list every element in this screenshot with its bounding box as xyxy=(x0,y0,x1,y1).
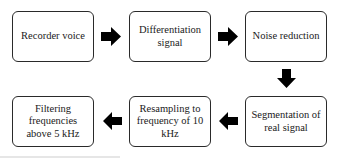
step-differentiation-signal: Differentiation signal xyxy=(129,11,211,62)
step-label: Resampling to frequency of 10 kHz xyxy=(133,103,207,141)
step-label: Recorder voice xyxy=(21,30,85,43)
step-segmentation: Segmentation of real signal xyxy=(245,96,327,147)
step-filtering: Filtering frequencies above 5 kHz xyxy=(12,96,94,147)
arrow-left-icon xyxy=(103,112,122,130)
divider xyxy=(0,156,120,158)
arrow-right-icon xyxy=(101,27,121,46)
step-label: Noise reduction xyxy=(253,30,320,43)
arrow-right-icon xyxy=(218,27,238,46)
arrow-left-icon xyxy=(219,112,238,130)
step-resampling: Resampling to frequency of 10 kHz xyxy=(129,96,211,147)
step-recorder-voice: Recorder voice xyxy=(12,11,94,62)
arrow-down-icon xyxy=(277,69,296,88)
step-label: Filtering frequencies above 5 kHz xyxy=(16,103,90,141)
step-label: Segmentation of real signal xyxy=(249,109,323,134)
step-noise-reduction: Noise reduction xyxy=(245,11,327,62)
step-label: Differentiation signal xyxy=(133,24,207,49)
